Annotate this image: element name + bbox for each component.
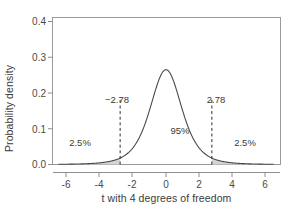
y-tick-label-0.2: 0.2 — [24, 88, 46, 99]
y-axis-title: Probability density — [0, 0, 18, 217]
x-tick-label-minus2: -2 — [128, 179, 137, 190]
x-axis-title: t with 4 degrees of freedom — [52, 192, 281, 204]
t-density-curve — [59, 70, 274, 165]
left-tail-percent-label: 2.5% — [69, 137, 91, 148]
x-axis-line — [53, 173, 280, 178]
left-critical-value-label: −2.78 — [105, 94, 129, 105]
x-tick-label-minus6: -6 — [62, 179, 71, 190]
x-tick-label-4: 4 — [229, 179, 235, 190]
y-axis-ticks — [48, 22, 53, 165]
right-critical-value-label: 2.78 — [207, 94, 226, 105]
plot-canvas — [0, 0, 298, 217]
x-tick-label-minus4: -4 — [95, 179, 104, 190]
central-percent-label: 95% — [170, 125, 189, 136]
distribution-data-layer — [59, 70, 274, 165]
x-tick-label-2: 2 — [196, 179, 202, 190]
y-tick-label-0.4: 0.4 — [24, 16, 46, 27]
x-tick-label-6: 6 — [262, 179, 268, 190]
y-tick-label-0.0: 0.0 — [24, 159, 46, 170]
right-tail-percent-label: 2.5% — [234, 137, 256, 148]
t-distribution-figure: Probability density t with 4 degrees of … — [0, 0, 298, 217]
y-tick-label-0.1: 0.1 — [24, 124, 46, 135]
y-tick-label-0.3: 0.3 — [24, 52, 46, 63]
x-tick-label-0: 0 — [163, 179, 169, 190]
